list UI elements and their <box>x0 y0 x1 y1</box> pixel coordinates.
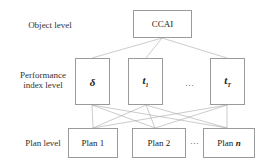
object-level-label: Object level <box>20 20 80 30</box>
plan-node-label: Plan 1 <box>82 138 105 148</box>
plan-node-2: Plan 2 <box>132 128 186 158</box>
object-node-label: CCAI <box>152 19 174 29</box>
plan-node-1: Plan 1 <box>68 128 118 158</box>
hierarchy-diagram: Object level Performance index level Pla… <box>0 0 269 168</box>
index-node-symbol: δ <box>90 76 96 88</box>
index-ellipsis: … <box>185 78 194 88</box>
index-node-delta: δ <box>75 58 110 105</box>
performance-level-label: Performance index level <box>12 70 74 90</box>
plan-node-n-symbol: n <box>236 138 241 148</box>
object-node-ccai: CCAI <box>133 10 192 38</box>
index-node-tT: tT <box>210 58 245 105</box>
index-node-t1: t1 <box>128 58 163 105</box>
index-node-subscript: 1 <box>146 83 149 89</box>
plan-node-label: Plan 2 <box>148 138 171 148</box>
plan-node-label: Plan <box>217 138 235 148</box>
index-node-subscript: T <box>227 83 231 89</box>
plan-level-label: Plan level <box>18 138 68 148</box>
performance-level-line2: index level <box>12 80 74 90</box>
plan-ellipsis: … <box>190 136 199 146</box>
plan-node-n: Plan n <box>203 128 255 158</box>
performance-level-line1: Performance <box>12 70 74 80</box>
